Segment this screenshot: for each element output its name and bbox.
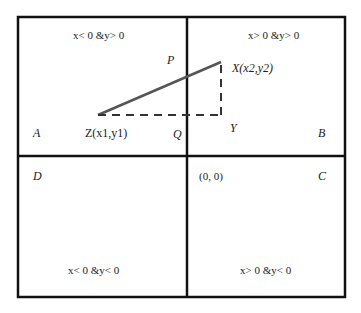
quadrant-label-d: D	[32, 169, 42, 183]
quadrant-label-a: A	[32, 126, 41, 140]
point-x-label: X(x2,y2)	[231, 61, 273, 75]
condition-quadrant-c: x> 0 &y< 0	[240, 264, 292, 276]
point-p-label: P	[166, 53, 175, 67]
quadrant-diagram: x< 0 &y> 0 x> 0 &y> 0 x> 0 &y< 0 x< 0 &y…	[0, 0, 361, 313]
segment-zx	[98, 62, 221, 115]
quadrant-label-c: C	[318, 169, 327, 183]
condition-quadrant-d: x< 0 &y< 0	[68, 264, 120, 276]
condition-quadrant-a: x< 0 &y> 0	[73, 29, 125, 41]
point-y-label: Y	[230, 121, 238, 135]
quadrant-label-b: B	[318, 126, 326, 140]
condition-quadrant-b: x> 0 &y> 0	[248, 29, 300, 41]
point-z-label: Z(x1,y1)	[85, 126, 127, 140]
origin-label: (0, 0)	[199, 170, 223, 183]
point-q-label: Q	[173, 127, 182, 141]
